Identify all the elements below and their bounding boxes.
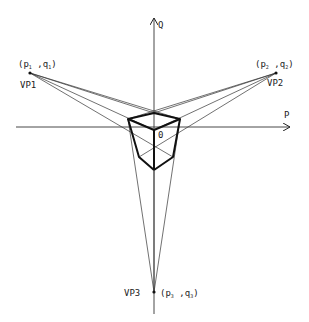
vp2-coordinates: (p2 ,q2): [255, 59, 294, 70]
vp2-label: VP2: [267, 78, 283, 88]
q-axis-label: Q: [158, 20, 163, 30]
perspective-diagram: Q P 0 (p1 ,q1) VP1 (p2 ,q2) VP2 VP3 (p3 …: [0, 0, 309, 322]
vp3-point: [152, 290, 155, 293]
vp1-projection-lines: [30, 73, 180, 157]
vp3-label: VP3: [124, 288, 140, 298]
vp1-point: [28, 71, 31, 74]
p-axis-label: P: [284, 110, 290, 120]
origin-label: 0: [158, 130, 163, 140]
vp1-label: VP1: [20, 80, 36, 90]
vp1-coordinates: (p1 ,q1): [18, 59, 57, 70]
vp2-point: [274, 71, 277, 74]
vp3-coordinates: (p3 ,q3): [160, 288, 199, 299]
vp2-projection-lines: [128, 73, 276, 157]
